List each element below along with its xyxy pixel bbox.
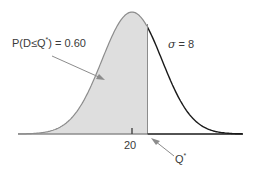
q-star-label: Q* — [175, 152, 186, 165]
probability-arrow — [52, 56, 105, 80]
q-star-label-q: Q — [175, 153, 184, 165]
shaded-probability-area — [18, 12, 148, 134]
sigma-symbol: σ — [168, 38, 176, 51]
probability-label-prefix: P(D≤Q — [12, 37, 46, 49]
curve-right-segment — [148, 27, 243, 134]
probability-label: P(D≤Q*) = 0.60 — [12, 36, 86, 49]
q-star-arrow — [151, 138, 174, 156]
sigma-value: = 8 — [176, 38, 195, 50]
mean-tick-label: 20 — [124, 140, 136, 151]
sigma-label: σ = 8 — [168, 39, 194, 50]
probability-label-suffix: ) = 0.60 — [48, 37, 86, 49]
q-star-label-star: * — [184, 152, 187, 159]
